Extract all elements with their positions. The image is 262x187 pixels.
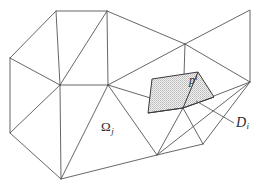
shaded-patch-group	[148, 72, 214, 113]
mesh-edge	[60, 85, 61, 179]
label-omega-subscript: j	[111, 126, 114, 136]
mesh-edges-group	[10, 10, 250, 179]
mesh-figure: Ωj pi Di	[0, 0, 262, 187]
mesh-outer-boundary	[10, 10, 250, 179]
label-p-superscript: i	[195, 73, 197, 82]
mesh-edge	[107, 11, 108, 85]
mesh-edge	[60, 11, 107, 85]
mesh-edge	[157, 108, 183, 155]
mesh-edge	[183, 108, 203, 144]
label-d-i: Di	[236, 116, 249, 131]
label-omega-base: Ω	[101, 119, 111, 134]
mesh-edge	[10, 85, 60, 133]
mesh-edge	[56, 11, 60, 85]
label-d-subscript: i	[246, 121, 249, 131]
label-p-i: pi	[189, 74, 198, 86]
mesh-edge	[10, 58, 60, 85]
mesh-canvas	[0, 0, 262, 187]
label-d-base: D	[236, 115, 246, 130]
label-omega-j: Ωj	[101, 120, 114, 136]
shaded-region-p	[148, 72, 214, 113]
